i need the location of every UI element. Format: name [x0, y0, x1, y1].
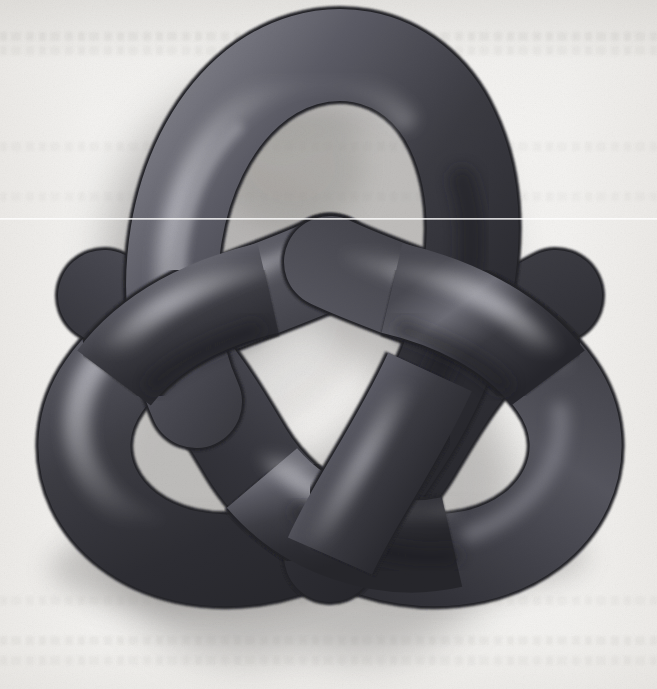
figure-page — [0, 0, 657, 689]
trefoil-knot-illustration — [0, 0, 657, 689]
